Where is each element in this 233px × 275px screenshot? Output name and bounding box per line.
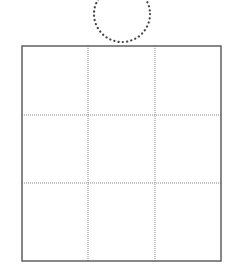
grid-inner-lines — [22, 46, 221, 261]
grid-border — [22, 46, 221, 261]
dotted-circle — [94, 0, 150, 42]
diagram-canvas — [0, 0, 233, 275]
